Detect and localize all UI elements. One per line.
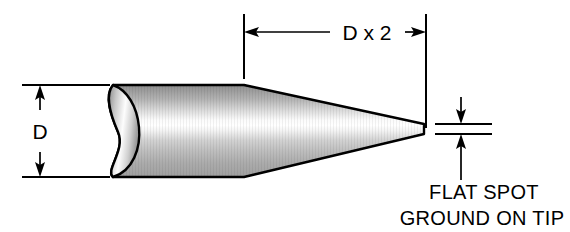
technical-drawing: D x 2 D (0, 0, 570, 232)
flat-spot-note-line-2: GROUND ON TIP (400, 207, 565, 229)
diagram-canvas: D x 2 D (0, 0, 570, 232)
length-dimension-label: D x 2 (342, 21, 391, 44)
flat-spot-note: FLAT SPOT GROUND ON TIP (400, 181, 565, 229)
tapered-rod-body (100, 80, 435, 185)
diameter-dimension-label: D (32, 120, 47, 143)
flat-spot-note-line-1: FLAT SPOT (429, 181, 539, 203)
halftone-texture (100, 80, 435, 185)
flat-spot-dimension-group (435, 97, 492, 180)
diameter-dimension-group: D (22, 85, 110, 177)
